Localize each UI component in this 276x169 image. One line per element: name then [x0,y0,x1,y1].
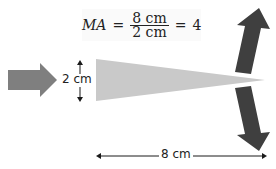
wedge-length-label: 8 cm [159,147,193,161]
formula-equals-2: = [175,17,187,33]
output-force-up-arrow-icon [235,8,270,74]
input-force-arrow-icon [8,63,57,97]
wedge-diagram: MA = 8 cm 2 cm = 4 2 cm 8 cm [0,0,276,169]
formula-denominator: 2 cm [130,26,168,39]
wedge-thickness-label: 2 cm [61,72,93,86]
output-force-down-arrow-icon [235,86,270,151]
formula-lhs: MA [82,17,106,33]
formula-result: 4 [192,17,201,33]
formula-fraction: 8 cm 2 cm [130,12,168,39]
formula-equals: = [112,17,124,33]
mechanical-advantage-formula: MA = 8 cm 2 cm = 4 [82,9,201,41]
